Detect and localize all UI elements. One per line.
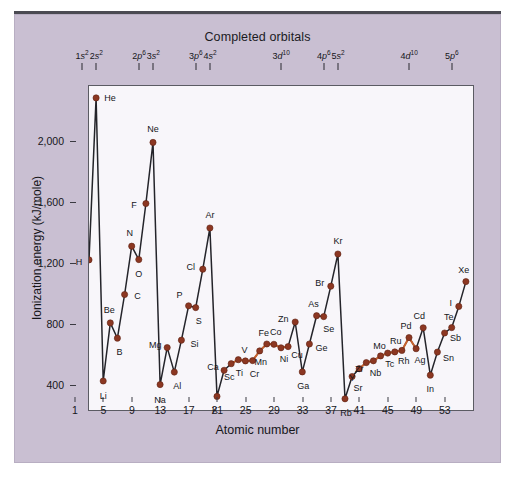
x-tick-mark [188, 397, 189, 402]
element-label-Mn: Mn [254, 357, 267, 367]
data-point-Sn[interactable] [434, 349, 440, 355]
orbital-tick-4p6 [323, 63, 324, 70]
x-tick-mark [274, 397, 275, 402]
data-point-Cu[interactable] [285, 344, 291, 350]
data-point-O[interactable] [136, 257, 142, 263]
x-tick-mark [359, 397, 360, 402]
data-point-V[interactable] [242, 358, 248, 364]
data-point-Se[interactable] [321, 314, 327, 320]
element-label-Se: Se [323, 324, 334, 334]
x-tick-mark [245, 397, 246, 402]
data-point-Zr[interactable] [363, 360, 369, 366]
data-point-Fe[interactable] [264, 341, 270, 347]
element-label-Te: Te [444, 312, 454, 322]
element-label-H: H [76, 257, 83, 267]
x-tick-mark [217, 397, 218, 402]
x-tick-label: 41 [354, 404, 366, 416]
data-point-Ga[interactable] [299, 369, 305, 375]
element-label-S: S [196, 316, 202, 326]
y-tick-mark [70, 385, 76, 386]
data-point-Be[interactable] [107, 320, 113, 326]
data-point-As[interactable] [314, 313, 320, 319]
orbital-tick-3d10 [281, 63, 282, 70]
element-label-Pd: Pd [400, 321, 411, 331]
data-point-Ti[interactable] [235, 357, 241, 363]
element-label-Xe: Xe [458, 265, 469, 275]
data-point-Sb[interactable] [442, 330, 448, 336]
x-tick-mark [103, 397, 104, 402]
orbital-tick-1s2 [82, 63, 83, 70]
data-point-Cl[interactable] [200, 266, 206, 272]
data-point-I[interactable] [456, 303, 462, 309]
element-label-Tc: Tc [385, 359, 394, 369]
data-point-Ag[interactable] [413, 346, 419, 352]
data-point-Ni[interactable] [278, 345, 284, 351]
data-point-He[interactable] [93, 95, 99, 101]
y-tick-label: 400 [14, 379, 64, 391]
element-label-Y: Y [349, 373, 355, 383]
element-label-B: B [116, 347, 122, 357]
data-point-Ar[interactable] [207, 225, 213, 231]
data-point-C[interactable] [122, 291, 128, 297]
data-point-Pd[interactable] [406, 335, 412, 341]
data-point-Rh[interactable] [399, 347, 405, 353]
x-tick-label: 25 [240, 404, 252, 416]
element-label-Rb: Rb [340, 408, 352, 418]
data-point-Si[interactable] [178, 337, 184, 343]
data-point-Ru[interactable] [392, 349, 398, 355]
plot-area: HHeLiBeBCNOFNeNaMgAlSiPSClArKCaScTiVCrMn… [88, 85, 474, 411]
data-point-In[interactable] [427, 372, 433, 378]
data-point-S[interactable] [193, 305, 199, 311]
data-point-Br[interactable] [328, 283, 334, 289]
element-label-Ru: Ru [390, 336, 402, 346]
data-point-Nb[interactable] [370, 358, 376, 364]
element-label-Al: Al [173, 381, 181, 391]
data-point-Mg[interactable] [164, 345, 170, 351]
data-point-Co[interactable] [271, 341, 277, 347]
y-tick-mark [70, 202, 76, 203]
element-label-Ca: Ca [207, 362, 219, 372]
data-point-Tc[interactable] [385, 350, 391, 356]
x-tick-label: 17 [183, 404, 195, 416]
data-point-Na[interactable] [157, 382, 163, 388]
element-label-In: In [427, 384, 435, 394]
data-point-Li[interactable] [100, 378, 106, 384]
element-label-Br: Br [315, 278, 324, 288]
x-tick-label: 33 [297, 404, 309, 416]
orbital-label-4d10: 4d10 [401, 49, 418, 61]
data-point-Zn[interactable] [292, 319, 298, 325]
chart-title: Completed orbitals [14, 30, 501, 44]
data-point-Te[interactable] [449, 325, 455, 331]
data-point-Ne[interactable] [150, 139, 156, 145]
data-point-Mn[interactable] [257, 348, 263, 354]
data-point-Ge[interactable] [306, 341, 312, 347]
data-point-B[interactable] [114, 335, 120, 341]
data-point-H[interactable] [89, 257, 92, 263]
element-label-Be: Be [104, 305, 115, 315]
data-point-Al[interactable] [171, 369, 177, 375]
x-tick-label: 13 [154, 404, 166, 416]
element-label-P: P [177, 290, 183, 300]
data-point-Cd[interactable] [420, 325, 426, 331]
data-point-Rb[interactable] [342, 396, 348, 402]
orbital-label-3d10: 3d10 [273, 49, 290, 61]
data-point-Xe[interactable] [463, 279, 469, 285]
element-label-He: He [104, 93, 116, 103]
orbital-label-5p6: 5p6 [445, 49, 459, 61]
data-point-Kr[interactable] [335, 251, 341, 257]
x-tick-label: 53 [439, 404, 451, 416]
data-point-N[interactable] [129, 243, 135, 249]
element-label-Sc: Sc [224, 372, 235, 382]
x-tick-label: 45 [382, 404, 394, 416]
element-label-Sr: Sr [354, 383, 363, 393]
data-point-P[interactable] [186, 303, 192, 309]
element-label-Fe: Fe [259, 328, 270, 338]
x-tick-mark [387, 397, 388, 402]
data-point-Sc[interactable] [228, 361, 234, 367]
x-tick-label: 49 [410, 404, 422, 416]
x-tick-mark [444, 397, 445, 402]
element-label-Cr: Cr [250, 369, 260, 379]
data-point-F[interactable] [143, 200, 149, 206]
data-point-Mo[interactable] [378, 353, 384, 359]
element-label-Mo: Mo [373, 341, 386, 351]
